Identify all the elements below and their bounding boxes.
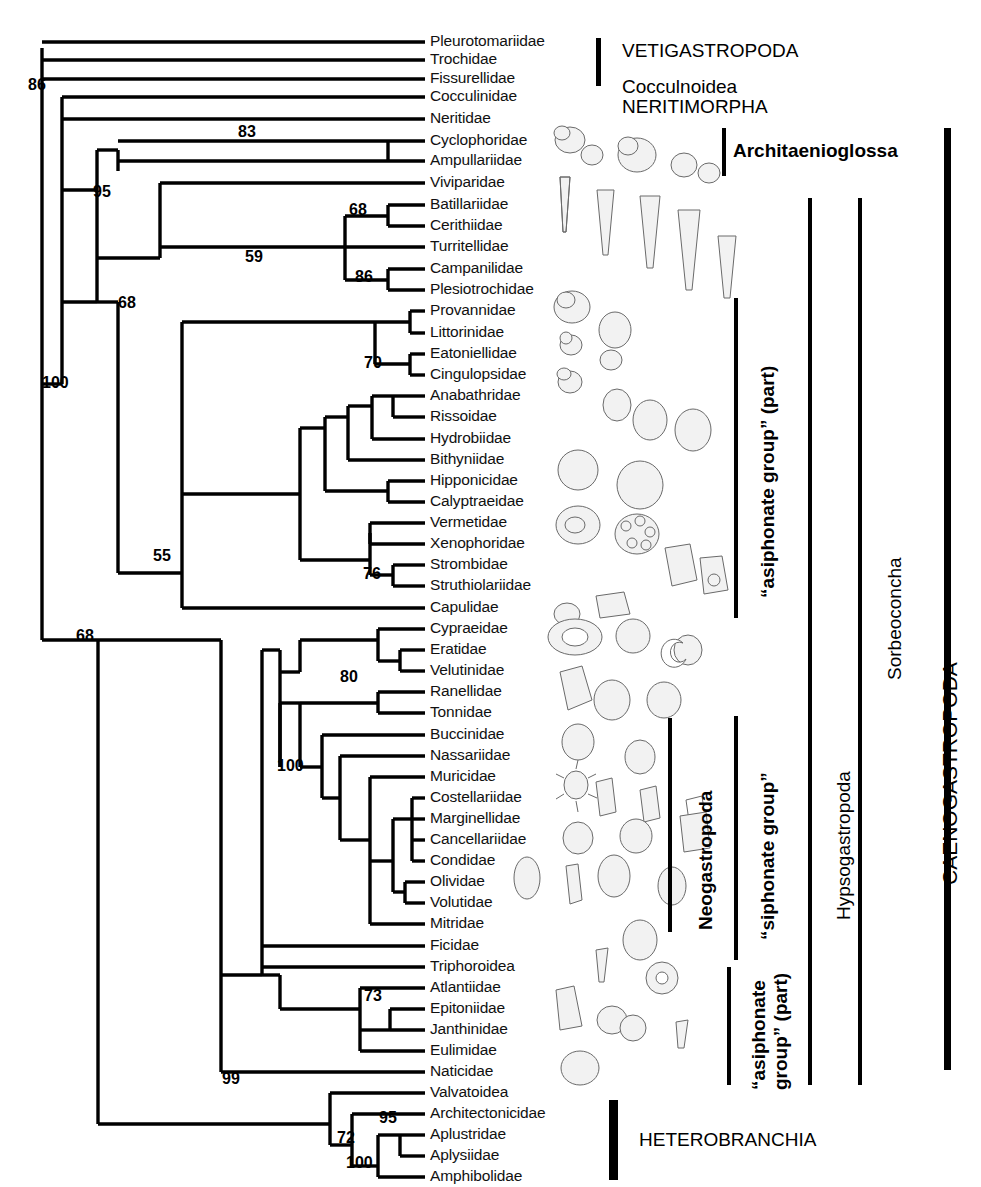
clade-label-heterobranchia: HETEROBRANCHIA: [639, 1129, 816, 1151]
bootstrap-value: 68: [349, 201, 367, 219]
taxon-label: Costellariidae: [430, 788, 522, 806]
taxon-label: Cerithiidae: [430, 216, 502, 234]
taxon-label: Naticidae: [430, 1062, 493, 1080]
taxon-label: Mitridae: [430, 914, 484, 932]
bootstrap-value: 86: [355, 268, 373, 286]
bootstrap-value: 95: [379, 1109, 397, 1127]
bootstrap-value: 86: [28, 76, 46, 94]
bootstrap-value: 100: [42, 374, 69, 392]
hypsogastropoda-bar: [808, 198, 812, 1085]
rotated-clade-label-hypsogastropoda: Hypsogastropoda: [833, 771, 855, 920]
taxon-label: Condidae: [430, 851, 495, 869]
taxon-label: Viviparidae: [430, 173, 505, 191]
taxon-label: Marginellidae: [430, 809, 520, 827]
bootstrap-value: 68: [76, 627, 94, 645]
taxon-label: Eulimidae: [430, 1041, 497, 1059]
taxon-label: Littorinidae: [430, 323, 504, 341]
taxon-label: Anabathridae: [430, 386, 520, 404]
taxon-label: Neritidae: [430, 109, 491, 127]
clade-label-cocculinoidea: Cocculnoidea: [622, 76, 737, 98]
rotated-clade-label-asiphonate-group-part-upper: “asiphonate group” (part): [757, 366, 779, 598]
taxon-label: Ranellidae: [430, 682, 502, 700]
taxon-label: Hipponicidae: [430, 471, 518, 489]
taxon-label: Campanilidae: [430, 259, 523, 277]
asiphonate-lower-bar: [727, 967, 731, 1085]
asiphonate-upper-bar: [734, 298, 738, 618]
taxon-label: Cingulopsidae: [430, 365, 526, 383]
figure-canvas: PleurotomariidaeTrochidaeFissurellidaeCo…: [0, 0, 981, 1187]
rotated-clade-label-siphonate-group: “siphonate group”: [757, 772, 779, 940]
bootstrap-value: 100: [346, 1154, 373, 1172]
rotated-clade-label-asiphonate-group-part-lower: “asiphonate group” (part): [748, 950, 792, 1090]
bootstrap-value: 55: [153, 547, 171, 565]
taxon-label: Eratidae: [430, 640, 487, 658]
taxon-label: Triphoroidea: [430, 957, 515, 975]
bootstrap-value: 95: [93, 183, 111, 201]
heterobranchia-bar: [609, 1100, 618, 1180]
taxon-label: Valvatoidea: [430, 1083, 508, 1101]
taxon-label: Cypraeidae: [430, 619, 508, 637]
taxon-label: Pleurotomariidae: [430, 32, 545, 50]
bootstrap-value: 70: [364, 354, 382, 372]
tree-branches: [42, 42, 425, 1177]
clade-label-architaenioglossa: Architaenioglossa: [733, 140, 898, 162]
bootstrap-value: 100: [277, 757, 304, 775]
bootstrap-value: 80: [340, 668, 358, 686]
rotated-clade-label-neogastropoda: Neogastropoda: [695, 791, 717, 930]
clade-label-vetigastropoda: VETIGASTROPODA: [622, 40, 798, 62]
taxon-label: Volutidae: [430, 893, 492, 911]
bootstrap-value: 83: [238, 123, 256, 141]
taxon-label: Cyclophoridae: [430, 131, 527, 149]
taxon-label: Cocculinidae: [430, 87, 517, 105]
taxon-label: Bithyniidae: [430, 450, 504, 468]
taxon-label: Janthinidae: [430, 1020, 508, 1038]
taxon-label: Aplysiidae: [430, 1146, 499, 1164]
neogastropoda-bar: [668, 718, 672, 932]
taxon-label: Xenophoridae: [430, 534, 525, 552]
taxon-label: Nassariidae: [430, 746, 510, 764]
taxon-label: Trochidae: [430, 50, 497, 68]
caenogastropoda-bar: [944, 128, 951, 1070]
taxon-label: Buccinidae: [430, 725, 504, 743]
taxon-label: Fissurellidae: [430, 69, 515, 87]
taxon-label: Atlantiidae: [430, 978, 501, 996]
taxon-label: Tonnidae: [430, 703, 492, 721]
taxon-label: Eatoniellidae: [430, 344, 517, 362]
taxon-label: Muricidae: [430, 767, 496, 785]
taxon-label: Turritellidae: [430, 237, 508, 255]
taxon-label: Cancellariidae: [430, 830, 526, 848]
architaenioglossa-bar: [722, 128, 726, 176]
taxon-label: Capulidae: [430, 598, 498, 616]
taxon-label: Struthiolariidae: [430, 576, 531, 594]
vetigastropoda-bar: [596, 38, 601, 86]
taxon-label: Olividae: [430, 872, 485, 890]
bootstrap-value: 59: [245, 248, 263, 266]
shell-illustrations: [514, 126, 736, 1085]
taxon-label: Strombidae: [430, 555, 508, 573]
taxon-label: Vermetidae: [430, 513, 507, 531]
bootstrap-value: 72: [337, 1129, 355, 1147]
bootstrap-value: 99: [222, 1070, 240, 1088]
rotated-clade-label-sorbeoconcha: Sorbeoconcha: [884, 557, 906, 680]
taxon-label: Provannidae: [430, 301, 515, 319]
taxon-label: Velutinidae: [430, 661, 504, 679]
taxon-label: Aplustridae: [430, 1125, 506, 1143]
taxon-label: Plesiotrochidae: [430, 280, 534, 298]
sorbeoconcha-bar: [858, 198, 862, 1085]
taxon-label: Amphibolidae: [430, 1167, 522, 1185]
taxon-label: Epitoniidae: [430, 999, 505, 1017]
bootstrap-value: 76: [363, 565, 381, 583]
bootstrap-value: 68: [118, 294, 136, 312]
taxon-label: Hydrobiidae: [430, 429, 511, 447]
taxon-label: Ficidae: [430, 936, 479, 954]
taxon-label: Batillariidae: [430, 195, 508, 213]
siphonate-bar: [734, 716, 738, 960]
taxon-label: Ampullariidae: [430, 151, 522, 169]
bootstrap-value: 73: [364, 987, 382, 1005]
rotated-clade-label-caenogastropoda: CAENOGASTROPODA: [938, 662, 962, 885]
taxon-label: Architectonicidae: [430, 1104, 546, 1122]
taxon-label: Rissoidae: [430, 407, 497, 425]
taxon-label: Calyptraeidae: [430, 492, 524, 510]
clade-label-neritimorpha: NERITIMORPHA: [622, 96, 768, 118]
